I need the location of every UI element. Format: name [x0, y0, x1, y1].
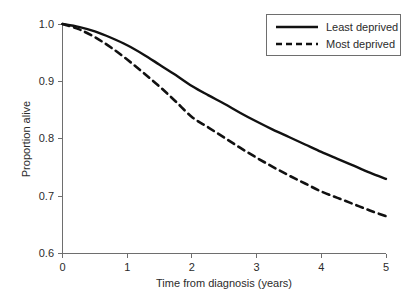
y-tick-label-0.6: 0.6 — [39, 247, 54, 259]
y-tick-label-0.7: 0.7 — [39, 190, 54, 202]
x-tick-label-0: 0 — [59, 261, 65, 273]
x-tick-label-4: 4 — [318, 261, 324, 273]
y-tick-label-0.8: 0.8 — [39, 132, 54, 144]
chart-legend: Least deprived Most deprived — [267, 15, 401, 56]
x-tick-label-5: 5 — [383, 261, 389, 273]
legend-label-least-deprived: Least deprived — [326, 21, 398, 33]
x-tick-label-2: 2 — [189, 261, 195, 273]
y-tick-label-1.0: 1.0 — [39, 18, 54, 30]
y-tick-label-0.9: 0.9 — [39, 75, 54, 87]
x-tick-label-3: 3 — [254, 261, 260, 273]
x-axis-title: Time from diagnosis (years) — [156, 277, 292, 289]
y-axis-title: Proportion alive — [20, 101, 32, 177]
legend-label-most-deprived: Most deprived — [326, 38, 395, 50]
x-tick-label-1: 1 — [124, 261, 130, 273]
chart-figure: 1.0 0.9 0.8 0.7 0.6 0 1 2 3 4 5 Time fro… — [0, 0, 409, 298]
survival-curve-chart: 1.0 0.9 0.8 0.7 0.6 0 1 2 3 4 5 Time fro… — [0, 0, 409, 298]
